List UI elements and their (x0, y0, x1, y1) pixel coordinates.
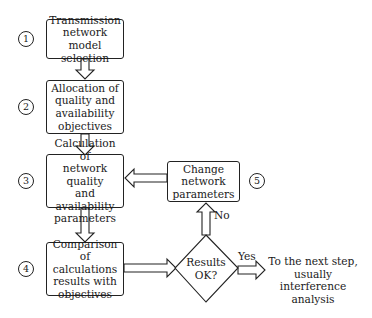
step-2-line: quality and (51, 94, 119, 107)
step-number-2: 2 (18, 99, 34, 115)
step-number-1: 1 (18, 31, 34, 47)
step-number-3: 3 (18, 173, 34, 189)
step-box-1: Transmission network model selection (46, 19, 124, 59)
step-3-line: Calculation of (49, 137, 121, 162)
edge-label-yes: Yes (238, 250, 256, 263)
step-3-line: network quality (49, 162, 121, 187)
step-number-4: 4 (18, 261, 34, 277)
step-2-line: Allocation of (51, 82, 119, 95)
step-3-line: parameters (49, 212, 121, 225)
step-box-3: Calculation of network quality and avail… (46, 154, 124, 208)
step-2-line: objectives (51, 120, 119, 133)
decision-label: Results OK? (181, 256, 231, 281)
step-3-line: and availability (49, 187, 121, 212)
arrow-right-4-decision (124, 259, 176, 277)
step-4-line: Comparison of (49, 238, 121, 263)
step-1-line: selection (49, 52, 121, 65)
step-5-line: Change (173, 163, 235, 176)
step-1-line: Transmission (49, 14, 121, 27)
step-4-line: objectives (49, 288, 121, 301)
outcome-line: analysis (266, 293, 360, 306)
step-number-5: 5 (249, 173, 265, 189)
step-1-line: network model (49, 26, 121, 51)
step-box-4: Comparison of calculations results with … (46, 242, 124, 296)
outcome-line: To the next step, (266, 255, 360, 268)
step-5-line: network (173, 175, 235, 188)
step-box-5: Change network parameters (167, 161, 240, 202)
outcome-text: To the next step, usually interference a… (266, 255, 360, 305)
step-5-line: parameters (173, 188, 235, 201)
arrow-left-5-3 (125, 169, 167, 187)
arrow-up-decision-5 (197, 203, 215, 235)
outcome-line: usually interference (266, 268, 360, 293)
step-4-line: calculations (49, 263, 121, 276)
decision-line: Results (181, 256, 231, 269)
edge-label-no: No (214, 209, 230, 222)
arrow-right-yes (238, 261, 265, 279)
step-box-2: Allocation of quality and availability o… (46, 80, 124, 134)
step-2-line: availability (51, 107, 119, 120)
step-4-line: results with (49, 275, 121, 288)
decision-line: OK? (181, 269, 231, 282)
